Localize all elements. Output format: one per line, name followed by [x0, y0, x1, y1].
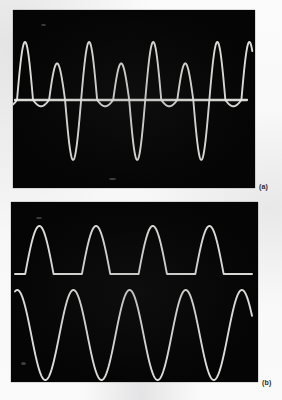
panel-caption-a: (a) — [259, 183, 268, 190]
crt-speck — [41, 24, 46, 26]
crt-speck — [36, 217, 42, 219]
crt-speck — [109, 178, 116, 180]
waveform-trace-a — [13, 10, 255, 188]
panel-caption-b: (b) — [262, 379, 272, 386]
crt-speck — [21, 362, 26, 365]
oscilloscope-panel-b — [11, 202, 258, 382]
oscilloscope-panel-a — [13, 10, 255, 188]
waveform-trace-b — [11, 202, 258, 382]
figure-page: (a) (b) — [0, 0, 282, 400]
